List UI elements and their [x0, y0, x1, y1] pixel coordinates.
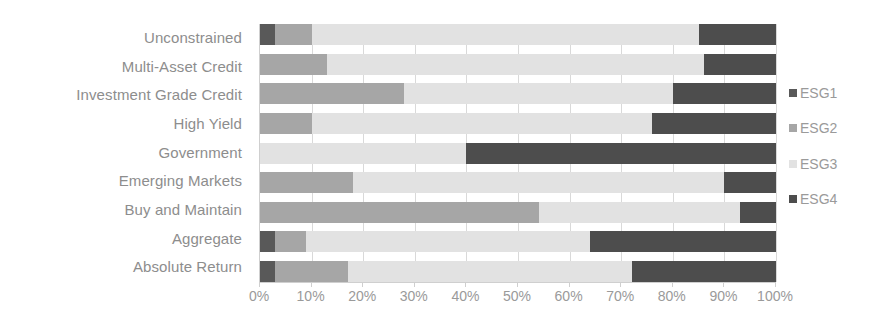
plot-area	[259, 24, 776, 283]
x-axis: 0%10%20%30%40%50%60%70%80%90%100%	[259, 283, 775, 309]
x-tick-mark	[672, 283, 673, 287]
x-tick-label: 90%	[709, 288, 737, 304]
table-row	[260, 261, 776, 282]
x-tick-mark	[414, 283, 415, 287]
x-tick-label: 80%	[658, 288, 686, 304]
x-tick-mark	[723, 283, 724, 287]
bar-segment-esg2	[260, 83, 404, 104]
bar-segment-esg3	[353, 172, 725, 193]
gridline	[776, 24, 777, 282]
bar-segment-esg3	[404, 83, 672, 104]
bar-segment-esg4	[652, 113, 776, 134]
x-tick-mark	[259, 283, 260, 287]
table-row	[260, 113, 776, 134]
x-tick-label: 60%	[555, 288, 583, 304]
category-label: Aggregate	[0, 225, 251, 254]
bar-segment-esg3	[348, 261, 632, 282]
legend-item-esg3[interactable]: ESG3	[789, 155, 884, 173]
x-tick-label: 40%	[451, 288, 479, 304]
legend-swatch-icon	[789, 124, 797, 132]
bar-segment-esg4	[724, 172, 776, 193]
bar-segment-esg4	[632, 261, 776, 282]
bar-segment-esg2	[260, 113, 312, 134]
x-tick-label: 20%	[348, 288, 376, 304]
legend-swatch-icon	[789, 160, 797, 168]
category-axis: UnconstrainedMulti-Asset CreditInvestmen…	[0, 24, 251, 282]
legend-item-esg4[interactable]: ESG4	[789, 190, 884, 208]
bar-segment-esg3	[327, 54, 704, 75]
table-row	[260, 172, 776, 193]
x-tick-label: 10%	[297, 288, 325, 304]
category-label: Investment Grade Credit	[0, 81, 251, 110]
category-label: Absolute Return	[0, 253, 251, 282]
category-label: Unconstrained	[0, 24, 251, 53]
category-label: Emerging Markets	[0, 167, 251, 196]
legend-item-esg1[interactable]: ESG1	[789, 84, 884, 102]
legend-label: ESG3	[800, 156, 837, 172]
bar-segment-esg2	[260, 172, 353, 193]
legend-label: ESG4	[800, 191, 837, 207]
table-row	[260, 54, 776, 75]
bar-segment-esg1	[260, 261, 275, 282]
x-tick-label: 0%	[249, 288, 269, 304]
bar-segment-esg3	[260, 143, 466, 164]
x-tick-mark	[569, 283, 570, 287]
bar-segment-esg4	[673, 83, 776, 104]
bar-segment-esg3	[539, 202, 740, 223]
bar-segment-esg4	[740, 202, 776, 223]
bar-segment-esg1	[260, 231, 275, 252]
bar-segment-esg2	[260, 54, 327, 75]
table-row	[260, 24, 776, 45]
bar-segment-esg3	[312, 113, 653, 134]
bar-segment-esg4	[590, 231, 776, 252]
bar-segment-esg4	[466, 143, 776, 164]
x-tick-mark	[311, 283, 312, 287]
bar-segment-esg4	[699, 24, 776, 45]
x-tick-mark	[620, 283, 621, 287]
x-tick-label: 100%	[757, 288, 793, 304]
bar-segment-esg2	[260, 202, 539, 223]
x-tick-label: 50%	[503, 288, 531, 304]
legend-label: ESG1	[800, 85, 837, 101]
category-label: Buy and Maintain	[0, 196, 251, 225]
bar-segment-esg4	[704, 54, 776, 75]
bar-segment-esg2	[275, 261, 347, 282]
bar-segment-esg1	[260, 24, 275, 45]
legend-item-esg2[interactable]: ESG2	[789, 119, 884, 137]
bar-series-container	[260, 24, 776, 282]
x-tick-label: 30%	[400, 288, 428, 304]
x-tick-mark	[775, 283, 776, 287]
x-tick-mark	[465, 283, 466, 287]
table-row	[260, 143, 776, 164]
category-label: Multi-Asset Credit	[0, 53, 251, 82]
table-row	[260, 202, 776, 223]
bar-segment-esg2	[275, 24, 311, 45]
table-row	[260, 231, 776, 252]
legend-swatch-icon	[789, 195, 797, 203]
x-tick-mark	[517, 283, 518, 287]
x-tick-label: 70%	[606, 288, 634, 304]
table-row	[260, 83, 776, 104]
bar-segment-esg2	[275, 231, 306, 252]
category-label: Government	[0, 139, 251, 168]
chart-legend: ESG1ESG2ESG3ESG4	[789, 84, 884, 208]
bar-segment-esg3	[312, 24, 699, 45]
category-label: High Yield	[0, 110, 251, 139]
x-tick-mark	[362, 283, 363, 287]
bar-segment-esg3	[306, 231, 590, 252]
legend-swatch-icon	[789, 89, 797, 97]
legend-label: ESG2	[800, 120, 837, 136]
stacked-bar-chart: UnconstrainedMulti-Asset CreditInvestmen…	[0, 0, 888, 333]
